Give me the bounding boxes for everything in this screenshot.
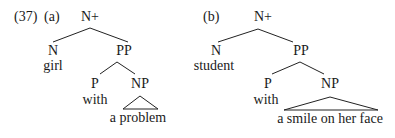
tree-a-n-word: girl bbox=[43, 58, 63, 73]
tree-b-n-node: N bbox=[211, 43, 221, 58]
tree-b-np-phrase: a smile on her face bbox=[277, 111, 383, 126]
tree-b-pp-node: PP bbox=[293, 43, 309, 58]
tree-b-np-node: NP bbox=[321, 76, 339, 91]
tree-b-edge-root-n bbox=[218, 29, 258, 42]
example-number: (37) bbox=[14, 9, 38, 25]
tree-b-edge-root-pp bbox=[258, 29, 293, 42]
tree-b-np-triangle bbox=[284, 97, 378, 110]
tree-a-edge-root-pp bbox=[90, 28, 128, 42]
tree-b-p-node: P bbox=[264, 76, 272, 91]
tree-a-pp-node: PP bbox=[116, 43, 132, 58]
tree-b-n-word: student bbox=[194, 58, 235, 73]
tree-b-p-word: with bbox=[254, 92, 279, 107]
tree-a-n-node: N bbox=[48, 43, 58, 58]
tree-a-np-triangle bbox=[123, 96, 158, 109]
tree-a-label: (a) bbox=[44, 9, 60, 25]
tree-a-edge-root-n bbox=[53, 28, 90, 42]
tree-a-edge-pp-p bbox=[100, 62, 117, 74]
tree-a-p-node: P bbox=[91, 76, 99, 91]
tree-b-root-node: N+ bbox=[254, 9, 272, 24]
tree-a-p-word: with bbox=[83, 92, 108, 107]
tree-b-label: (b) bbox=[203, 9, 220, 25]
tree-a-edge-pp-np bbox=[117, 62, 135, 74]
tree-a-np-phrase: a problem bbox=[110, 110, 166, 125]
tree-a-root-node: N+ bbox=[81, 9, 99, 24]
tree-a: (a) N+ N girl PP P with NP a problem bbox=[43, 9, 166, 125]
tree-a-np-node: NP bbox=[131, 76, 149, 91]
syntax-tree-diagram: (37) (a) N+ N girl PP P with NP a proble… bbox=[0, 0, 395, 138]
tree-b-edge-pp-p bbox=[272, 62, 300, 74]
tree-b: (b) N+ N student PP P with NP a smile on… bbox=[194, 9, 383, 126]
tree-b-edge-pp-np bbox=[300, 62, 324, 74]
